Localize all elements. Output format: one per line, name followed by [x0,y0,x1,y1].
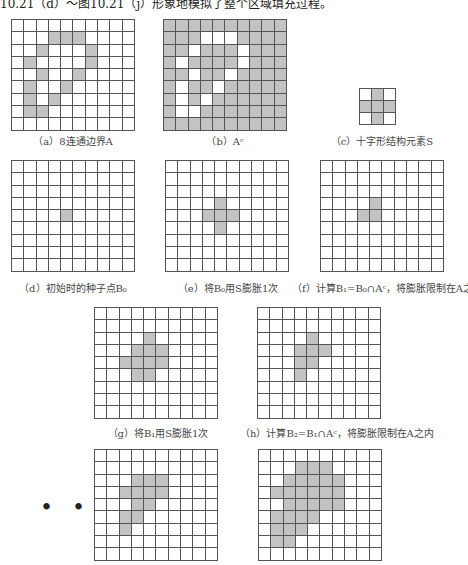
grid-cell [166,186,178,198]
grid-cell [344,357,356,369]
grid-cell [277,222,289,234]
grid-cell [24,222,36,234]
grid-cell [240,210,252,222]
grid-cell [156,345,168,357]
grid-cell [308,475,320,487]
grid-cell [319,369,331,381]
grid-cell [262,81,274,93]
grid-cell [24,161,36,173]
grid-cell [275,69,287,81]
grid-cell [181,475,193,487]
grid-cell [120,487,132,499]
grid-cell [206,511,218,523]
grid-cell [181,536,193,548]
grid-cell [419,210,431,222]
grid-cell [271,462,283,474]
grid-cell [370,524,382,536]
grid-cell [357,450,369,462]
grid-cell [37,81,49,93]
grid-cell [12,57,24,69]
grid-cell [333,161,345,173]
grid-cell [120,308,132,320]
grid-h-intersect-b2 [257,307,381,419]
grid-cell [61,94,73,106]
grid-cell [206,308,218,320]
grid-cell [382,210,394,222]
grid-cell [73,118,85,130]
grid-cell [120,462,132,474]
grid-cell [120,394,132,406]
grid-cell [95,308,107,320]
grid-cell [73,57,85,69]
grid-cell [345,487,357,499]
grid-cell [12,247,24,259]
grid-cell [95,462,107,474]
grid-cell [332,333,344,345]
grid-cell [189,69,201,81]
grid-cell [24,94,36,106]
grid-cell [132,548,144,560]
grid-cell [213,57,225,69]
grid-cell [201,69,213,81]
grid-cell [49,94,61,106]
grid-cell [250,45,262,57]
grid-cell [283,382,295,394]
grid-cell [307,369,319,381]
grid-cell [358,198,370,210]
grid-cell [332,406,344,418]
grid-cell [144,308,156,320]
grid-cell [12,45,24,57]
grid-cell [107,382,119,394]
grid-cell [320,450,332,462]
grid-cell [61,198,73,210]
grid-cell [238,94,250,106]
grid-cell [181,487,193,499]
grid-cell [333,499,345,511]
grid-cell [86,235,98,247]
grid-i-intermediate [94,449,218,561]
grid-cell [86,57,98,69]
grid-cell [37,198,49,210]
grid-cell [176,20,188,32]
grid-cell [203,173,215,185]
grid-cell [178,235,190,247]
grid-cell [319,308,331,320]
grid-cell [169,369,181,381]
grid-cell [178,173,190,185]
grid-cell [419,198,431,210]
grid-cell [252,235,264,247]
grid-cell [369,394,381,406]
grid-cell [37,94,49,106]
grid-cell [395,173,407,185]
grid-cell [156,475,168,487]
grid-cell [123,173,135,185]
grid-cell [193,499,205,511]
grid-cell [120,369,132,381]
grid-cell [319,406,331,418]
grid-cell [419,161,431,173]
grid-cell [395,161,407,173]
grid-cell [12,173,24,185]
grid-cell [358,186,370,198]
grid-cell [12,222,24,234]
grid-cell [277,186,289,198]
grid-cell [252,161,264,173]
grid-cell [191,222,203,234]
grid-cell [240,161,252,173]
grid-cell [49,235,61,247]
grid-cell [201,32,213,44]
grid-cell [227,173,239,185]
grid-cell [164,57,176,69]
grid-cell [37,173,49,185]
grid-cell [73,32,85,44]
grid-cell [169,511,181,523]
grid-cell [277,161,289,173]
grid-cell [86,94,98,106]
grid-cell [319,345,331,357]
grid-cell [37,222,49,234]
grid-cell [169,406,181,418]
grid-cell [98,57,110,69]
grid-cell [321,222,333,234]
grid-cell [370,450,382,462]
grid-cell [206,475,218,487]
